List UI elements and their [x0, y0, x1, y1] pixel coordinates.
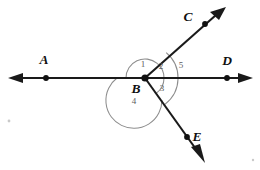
arrow-head-E — [191, 144, 205, 163]
scan-speck — [8, 120, 11, 123]
figure-canvas: A B C D E 1 2 3 4 5 — [0, 0, 260, 170]
vertex-point-B — [141, 74, 148, 81]
arrow-head-A — [8, 73, 23, 83]
angle-label-5: 5 — [179, 60, 184, 70]
angle-label-1: 1 — [141, 59, 146, 69]
angle-label-4: 4 — [132, 96, 137, 106]
point-A-dot — [43, 75, 49, 81]
point-label-D: D — [221, 53, 232, 68]
angle-label-2: 2 — [159, 61, 164, 71]
geometry-figure: A B C D E 1 2 3 4 5 — [0, 0, 260, 170]
point-E-dot — [184, 134, 190, 140]
point-label-A: A — [38, 52, 48, 67]
arrow-head-D — [238, 73, 253, 83]
point-C-dot — [202, 21, 208, 27]
point-label-C: C — [183, 9, 193, 24]
angle-label-3: 3 — [160, 83, 165, 93]
point-D-dot — [224, 75, 230, 81]
ray-BE-line — [145, 78, 198, 152]
point-label-B: B — [130, 81, 140, 96]
scan-speck — [252, 159, 254, 161]
point-label-E: E — [191, 129, 201, 144]
